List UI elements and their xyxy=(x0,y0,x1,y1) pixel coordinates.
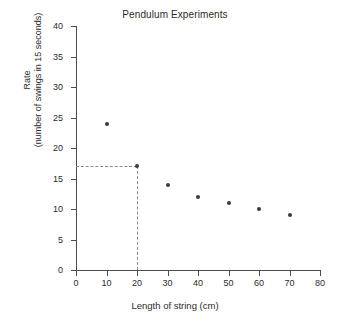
x-tick-10 xyxy=(107,271,108,276)
data-point-30cm xyxy=(166,183,170,187)
x-tick-label-50: 50 xyxy=(219,278,239,288)
data-point-10cm xyxy=(105,122,109,126)
data-point-40cm xyxy=(196,195,200,199)
x-tick-0 xyxy=(76,271,77,276)
x-tick-80 xyxy=(320,271,321,276)
readoff-guideline-vertical xyxy=(137,166,138,270)
y-tick-label-25: 25 xyxy=(43,113,63,123)
y-axis-label-line1: Rate xyxy=(22,71,33,90)
y-tick-15: 15 xyxy=(71,179,76,180)
y-axis-line xyxy=(76,26,77,271)
x-tick-label-0: 0 xyxy=(66,278,86,288)
x-tick-label-70: 70 xyxy=(280,278,300,288)
x-tick-label-20: 20 xyxy=(127,278,147,288)
y-tick-label-20: 20 xyxy=(43,143,63,153)
y-tick-label-5: 5 xyxy=(43,235,63,245)
x-tick-label-80: 80 xyxy=(310,278,330,288)
y-tick-40: 40 xyxy=(71,26,76,27)
y-tick-label-35: 35 xyxy=(43,52,63,62)
x-tick-70 xyxy=(290,271,291,276)
data-point-70cm xyxy=(288,213,292,217)
y-tick-label-0: 0 xyxy=(43,265,63,275)
y-tick-30: 30 xyxy=(71,87,76,88)
data-point-60cm xyxy=(257,207,261,211)
y-tick-35: 35 xyxy=(71,57,76,58)
data-point-20cm xyxy=(135,164,139,168)
chart-title: Pendulum Experiments xyxy=(0,9,350,20)
x-tick-label-60: 60 xyxy=(249,278,269,288)
y-tick-5: 5 xyxy=(71,240,76,241)
data-point-50cm xyxy=(227,201,231,205)
y-tick-label-15: 15 xyxy=(43,174,63,184)
y-tick-20: 20 xyxy=(71,148,76,149)
plot-area: 0510152025303540 01020304050607080 xyxy=(76,26,320,270)
x-tick-40 xyxy=(198,271,199,276)
x-tick-20 xyxy=(137,271,138,276)
pendulum-scatter-chart: Pendulum Experiments Rate (number of swi… xyxy=(0,0,350,324)
x-tick-label-40: 40 xyxy=(188,278,208,288)
y-tick-25: 25 xyxy=(71,118,76,119)
readoff-guideline-horizontal xyxy=(76,166,137,167)
y-tick-label-30: 30 xyxy=(43,82,63,92)
y-axis-label-line2: (number of swings in 15 seconds) xyxy=(33,13,44,148)
x-tick-60 xyxy=(259,271,260,276)
x-tick-50 xyxy=(229,271,230,276)
x-tick-label-10: 10 xyxy=(97,278,117,288)
x-tick-30 xyxy=(168,271,169,276)
x-axis-label: Length of string (cm) xyxy=(0,300,350,311)
y-tick-10: 10 xyxy=(71,209,76,210)
y-tick-label-10: 10 xyxy=(43,204,63,214)
x-tick-label-30: 30 xyxy=(158,278,178,288)
y-tick-label-40: 40 xyxy=(43,21,63,31)
